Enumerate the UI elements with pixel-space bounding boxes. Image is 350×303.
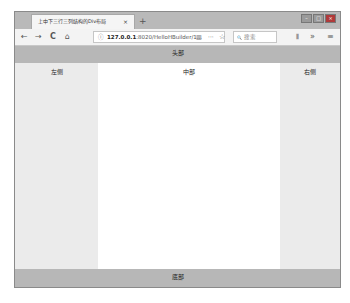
window-controls: – □ × — [301, 14, 336, 23]
right-label: 右侧 — [304, 68, 316, 75]
middle-label: 中部 — [183, 68, 195, 75]
url-path: :8020/HelloHBuilder/1... — [136, 34, 202, 40]
minimize-button[interactable]: – — [301, 14, 312, 23]
forward-icon[interactable]: → — [35, 31, 42, 43]
window-close-button[interactable]: × — [325, 14, 336, 23]
maximize-button[interactable]: □ — [313, 14, 324, 23]
middle-column: 中部 — [98, 63, 280, 269]
right-column: 右侧 — [280, 63, 340, 269]
reload-icon[interactable]: C — [50, 31, 56, 43]
home-icon[interactable]: ⌂ — [65, 31, 70, 43]
new-tab-button[interactable]: + — [139, 15, 147, 27]
title-bar: 上中下三行三列结构的Div布局 × + – □ × — [15, 12, 340, 29]
page-header: 头部 — [15, 46, 340, 63]
reader-view-icon[interactable]: ▥ — [196, 31, 202, 43]
back-icon[interactable]: ← — [21, 31, 28, 43]
header-label: 头部 — [172, 49, 184, 56]
navigation-bar: ← → C ⌂ ⓘ127.0.0.1:8020/HelloHBuilder/1.… — [15, 29, 340, 46]
url-host: 127.0.0.1 — [107, 34, 136, 40]
menu-icon[interactable]: ≡ — [327, 31, 334, 43]
bookmark-star-icon[interactable]: ☆ — [219, 31, 225, 43]
browser-window: 上中下三行三列结构的Div布局 × + – □ × ← → C ⌂ ⓘ127.0… — [14, 11, 341, 288]
overflow-icon[interactable]: » — [310, 31, 315, 43]
close-icon[interactable]: × — [123, 15, 128, 28]
left-column: 左侧 — [15, 63, 98, 269]
library-icon[interactable]: ⫴ — [296, 31, 299, 43]
tab-title: 上中下三行三列结构的Div布局 — [38, 18, 106, 24]
search-placeholder: 搜索 — [244, 34, 256, 40]
search-icon: 🔍 — [237, 35, 242, 40]
page-footer: 底部 — [15, 269, 340, 287]
footer-label: 底部 — [172, 273, 184, 280]
more-icon[interactable]: ··· — [208, 31, 214, 43]
info-icon[interactable]: ⓘ — [98, 34, 104, 40]
search-input[interactable]: 🔍 搜索 — [233, 31, 277, 43]
browser-tab[interactable]: 上中下三行三列结构的Div布局 × — [31, 14, 135, 29]
left-label: 左侧 — [51, 68, 63, 75]
url-bar[interactable]: ⓘ127.0.0.1:8020/HelloHBuilder/1... — [93, 31, 225, 43]
